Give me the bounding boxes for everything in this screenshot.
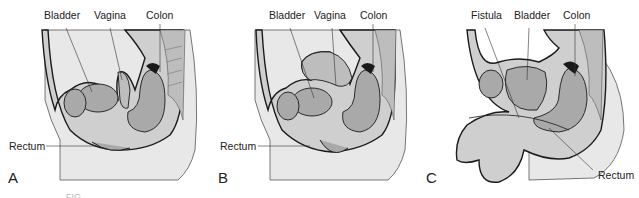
- label-fistula: Fistula: [471, 9, 502, 21]
- panel-letter: B: [218, 170, 228, 186]
- label-bladder: Bladder: [514, 9, 550, 21]
- panel-b: Bladder Vagina Colon Rectum B: [210, 0, 423, 185]
- panel-a: Bladder Vagina Colon Rectum A: [0, 0, 213, 185]
- figure-caption: FIG. ...: [66, 190, 626, 198]
- label-colon: Colon: [146, 9, 173, 21]
- label-vagina: Vagina: [94, 9, 126, 21]
- label-rectum: Rectum: [9, 140, 45, 152]
- label-bladder: Bladder: [44, 9, 80, 21]
- male-pelvis-fistula-illustration: [419, 0, 639, 185]
- label-rectum: Rectum: [598, 169, 634, 181]
- label-colon: Colon: [360, 9, 387, 21]
- panel-letter: A: [8, 170, 18, 186]
- female-pelvis-normal-illustration: [0, 0, 213, 185]
- label-colon: Colon: [563, 9, 590, 21]
- label-bladder: Bladder: [269, 9, 305, 21]
- label-rectum: Rectum: [220, 140, 256, 152]
- panel-c: Fistula Bladder Colon Rectum C: [419, 0, 632, 185]
- panel-letter: C: [426, 170, 437, 186]
- female-pelvis-prolapse-illustration: [210, 0, 423, 185]
- label-vagina: Vagina: [314, 9, 346, 21]
